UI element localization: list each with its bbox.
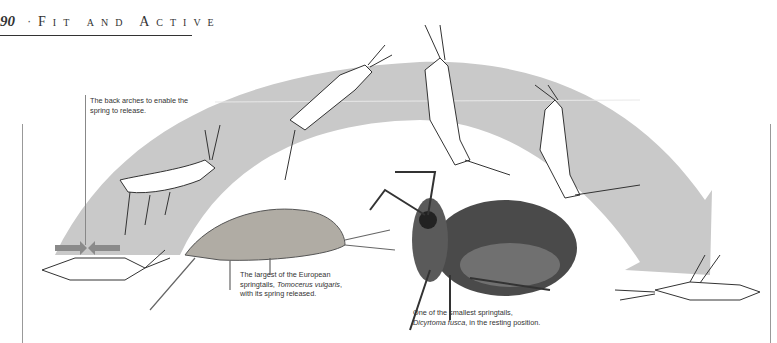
caption-tomocerus: The largest of the European springtails,… [240, 270, 380, 299]
caption-back-arches: The back arches to enable the spring to … [90, 96, 210, 115]
caption-dicyrtoma: One of the smallest springtails, Dicyrto… [413, 308, 603, 327]
springtail-jump-illustration [0, 0, 777, 343]
caption-leader-line [85, 95, 86, 245]
jump-trajectory-arrow [55, 62, 712, 275]
dicyrtoma-fusca-drawing [370, 172, 577, 330]
